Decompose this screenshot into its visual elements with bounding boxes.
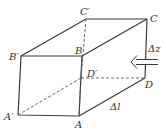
label-d: D: [144, 79, 153, 90]
edge-b-c: [82, 19, 147, 56]
edge-a-prime-d-prime: [18, 78, 81, 115]
edge-c-d: [145, 19, 147, 78]
label-b: B: [74, 45, 82, 56]
label-delta-l: Δl: [109, 101, 120, 112]
prism-svg: C′ C B′ B D′ D A′ A Δz Δl: [0, 0, 166, 134]
label-c-prime: C′: [80, 6, 91, 17]
label-a: A: [74, 119, 82, 130]
label-delta-z: Δz: [147, 43, 161, 54]
hidden-edges: [18, 19, 145, 116]
edge-front-face: [18, 56, 82, 116]
label-a-prime: A′: [3, 111, 14, 122]
visible-edges: [18, 19, 147, 116]
prism-diagram: C′ C B′ B D′ D A′ A Δz Δl: [0, 0, 166, 134]
label-c: C: [150, 13, 158, 24]
inflow-arrow-icon: [131, 56, 158, 69]
label-d-prime: D′: [86, 68, 98, 79]
label-b-prime: B′: [8, 51, 19, 62]
